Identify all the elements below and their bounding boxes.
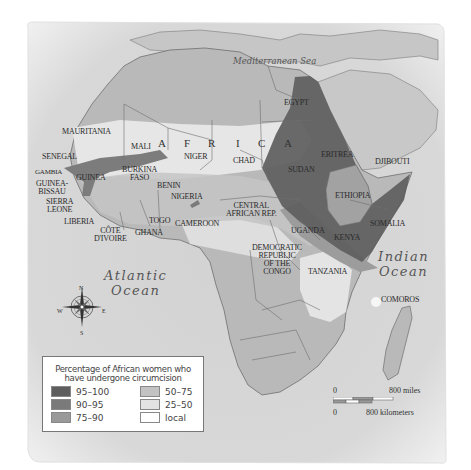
scale-km-label: 800 kilometers bbox=[366, 408, 414, 417]
scale-km-zero: 0 bbox=[333, 408, 337, 417]
compass-e: E bbox=[102, 307, 105, 315]
label-tanzania: TANZANIA bbox=[308, 268, 347, 276]
map-title-letter: I bbox=[236, 137, 240, 149]
comoros-islands bbox=[371, 297, 381, 307]
legend-item-90-95: 90–95 bbox=[51, 399, 103, 410]
label-drc: DEMOCRATICREPUBLICOF THECONGO bbox=[252, 244, 302, 276]
label-mauritania: MAURITANIA bbox=[62, 128, 111, 136]
label-somalia: SOMALIA bbox=[370, 220, 405, 228]
label-egypt: EGYPT bbox=[284, 99, 309, 107]
scale-bar: 0 800 miles 0 800 kilometers bbox=[333, 386, 433, 422]
map-title-letter: A bbox=[158, 137, 166, 149]
legend-swatch bbox=[51, 412, 71, 423]
label-uganda: UGANDA bbox=[291, 227, 324, 235]
label-sierra-leone: SIERRALEONE bbox=[46, 198, 73, 214]
label-eritrea: ERITREA bbox=[321, 151, 353, 159]
legend-swatch bbox=[51, 399, 71, 410]
label-comoros: COMOROS bbox=[381, 296, 419, 304]
label-burkina-faso: BURKINAFASO bbox=[122, 166, 157, 182]
map-title-letter: A bbox=[284, 137, 292, 149]
scale-bar-graphic bbox=[333, 397, 413, 405]
label-chad: CHAD bbox=[233, 157, 255, 165]
compass-n: N bbox=[79, 284, 83, 292]
legend-title: Percentage of African women who have und… bbox=[43, 365, 203, 383]
label-ethiopia: ETHIOPIA bbox=[335, 192, 370, 200]
label-kenya: KENYA bbox=[334, 234, 360, 242]
label-gambia: GAMBIA bbox=[35, 168, 62, 176]
compass-w: W bbox=[57, 307, 62, 315]
atlantic-ocean-label: AtlanticOcean bbox=[104, 268, 167, 298]
label-benin: BENIN bbox=[157, 182, 180, 190]
label-mali: MALI bbox=[131, 143, 151, 151]
label-cote-divoire: CÔTED'IVOIRE bbox=[94, 227, 127, 243]
legend-item-75-90: 75–90 bbox=[51, 412, 103, 423]
label-cameroon: CAMEROON bbox=[175, 220, 219, 228]
scale-miles-label: 800 miles bbox=[389, 386, 420, 395]
label-senegal: SENEGAL bbox=[42, 153, 77, 161]
label-niger: NIGER bbox=[184, 153, 207, 161]
legend: Percentage of African women who have und… bbox=[42, 356, 204, 432]
label-central-african-rep: CENTRALAFRICAN REP. bbox=[226, 202, 277, 218]
legend-item-50-75: 50–75 bbox=[140, 386, 192, 397]
compass-s: S bbox=[80, 329, 83, 337]
label-guinea-bissau: GUINEA-BISSAU bbox=[36, 180, 68, 196]
legend-swatch bbox=[140, 399, 160, 410]
legend-swatch bbox=[51, 386, 71, 397]
label-nigeria: NIGERIA bbox=[171, 193, 202, 201]
label-ghana: GHANA bbox=[135, 229, 163, 237]
label-togo: TOGO bbox=[149, 217, 170, 225]
label-djibouti: DJIBOUTI bbox=[375, 158, 409, 166]
map-title-letter: R bbox=[208, 137, 215, 149]
legend-swatch bbox=[140, 386, 160, 397]
legend-swatch bbox=[140, 412, 160, 423]
map-title-letter: C bbox=[258, 137, 265, 149]
label-sudan: SUDAN bbox=[288, 166, 315, 174]
legend-item-local: local bbox=[140, 412, 186, 423]
indian-ocean-label: IndianOcean bbox=[378, 249, 429, 279]
legend-item-95-100: 95–100 bbox=[51, 386, 109, 397]
label-liberia: LIBERIA bbox=[64, 218, 94, 226]
label-guinea: GUINEA bbox=[76, 174, 105, 182]
scale-miles-zero: 0 bbox=[333, 386, 337, 395]
map-title-letter: F bbox=[184, 137, 190, 149]
legend-item-25-50: 25–50 bbox=[140, 399, 192, 410]
mediterranean-sea-label: Mediterranean Sea bbox=[233, 56, 316, 66]
